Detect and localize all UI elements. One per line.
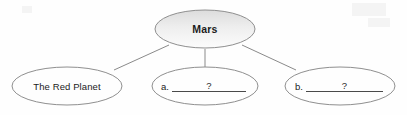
node-ellipse-blank-a[interactable] [152, 67, 258, 105]
connector-mars-to-red-planet [114, 45, 169, 70]
node-ellipse-blank-b[interactable] [285, 67, 395, 105]
node-ellipse-mars[interactable] [155, 10, 255, 48]
connector-mars-to-blank-b [242, 45, 296, 70]
concept-map-diagram [0, 0, 407, 115]
worksheet-canvas: Mars The Red Planet a. ? b. ? [0, 0, 407, 115]
connector-group [114, 45, 296, 70]
node-ellipse-red-planet[interactable] [12, 67, 122, 105]
